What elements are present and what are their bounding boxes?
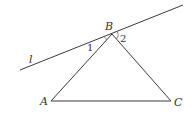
label-b: B (104, 20, 113, 33)
side-bc (112, 34, 171, 101)
label-angle-2: 2 (120, 33, 126, 44)
geometry-diagram: B A C l 1 2 (0, 0, 194, 119)
angle-2-arc (117, 32, 119, 39)
label-c: C (174, 96, 183, 109)
side-ab (51, 34, 112, 101)
angle-1-arc (105, 37, 107, 40)
label-angle-1: 1 (87, 42, 93, 53)
line-l (20, 5, 183, 70)
label-line-l: l (29, 53, 33, 66)
label-a: A (39, 95, 48, 108)
